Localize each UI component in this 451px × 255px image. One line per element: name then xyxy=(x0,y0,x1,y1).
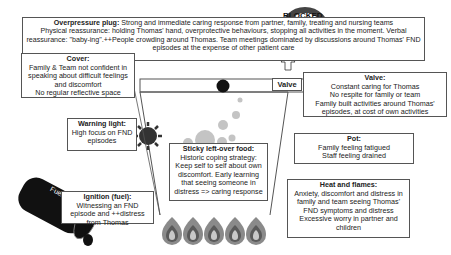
cover-line: Family & Team not confident in speaking … xyxy=(28,63,128,89)
valve-box: Valve: Constant caring for Thomas No res… xyxy=(303,72,447,117)
pot-line: Staff feeling drained xyxy=(322,151,386,160)
valve-line: Family built activities around Thomas' e… xyxy=(315,99,434,117)
flames-icon xyxy=(162,217,266,245)
heat-flames-box: Heat and flames: Anxiety, discomfort and… xyxy=(287,179,410,238)
heat-flames-line: Anxiety, discomfort and distress in fami… xyxy=(294,189,403,215)
cover-line: No regular reflective space xyxy=(35,88,121,97)
sticky-food-line: Historic coping strategy: Keep self to s… xyxy=(174,153,262,196)
warning-light-line: High focus on FND episodes xyxy=(72,128,133,146)
ignition-box: Ignition (fuel): Witnessing an FND episo… xyxy=(61,191,154,224)
heat-flames-line: Excessive worry in partner and children xyxy=(299,214,397,232)
warning-light-icon xyxy=(134,122,162,150)
lid-knob xyxy=(217,80,230,93)
cover-box: Cover: Family & Team not confident in sp… xyxy=(21,53,135,98)
valve-label: Valve xyxy=(272,78,302,91)
sticky-food-box: Sticky left-over food: Historic coping s… xyxy=(169,143,268,201)
overpressure-plug-line2: Physical reassurance: holding Thomas' ha… xyxy=(27,27,421,52)
ignition-line: Witnessing an FND episode and ++distress… xyxy=(70,201,144,227)
overpressure-plug-line1: Strong and immediate caring response fro… xyxy=(119,19,393,27)
overpressure-plug-title: Overpressure plug: xyxy=(54,19,119,27)
pot-box: Pot: Family feeling fatigued Staff feeli… xyxy=(294,133,414,164)
warning-light-box: Warning light: High focus on FND episode… xyxy=(67,118,137,151)
